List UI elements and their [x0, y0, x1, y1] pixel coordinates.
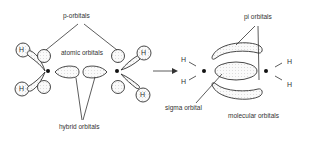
p-orbital-lobe [112, 50, 125, 63]
carbon-nucleus [202, 69, 206, 73]
h-atom-label: H [181, 78, 186, 85]
sigma-orbital [215, 62, 257, 80]
orbital-diagram [0, 0, 310, 142]
molecular-orbitals-label: molecular orbitals [228, 113, 279, 120]
h-atom-label: H [140, 91, 145, 98]
pi-orbital-upper [212, 43, 262, 59]
h-atom-label: H [141, 49, 146, 56]
atomic-orbitals-label: atomic orbitals [61, 50, 103, 57]
p-orbital-lobe [38, 50, 51, 63]
hybrid-lobe [55, 66, 79, 78]
hybrid-orbitals-label: hybrid orbitals [59, 124, 99, 131]
p-orbitals-label: p-orbitals [63, 13, 90, 20]
h-atom-label: H [181, 56, 186, 63]
p-orbital-lobe [112, 81, 125, 94]
carbon-nucleus [115, 69, 119, 73]
carbon-nucleus [264, 69, 268, 73]
sigma-orbital-label: sigma orbital [165, 105, 202, 112]
p-orbital-lobe [38, 81, 51, 94]
h-atom-label: H [19, 46, 24, 53]
h-atom-label: H [287, 81, 292, 88]
h-atom-label: H [287, 58, 292, 65]
carbon-nucleus [46, 69, 50, 73]
pi-orbital-lower [212, 83, 262, 99]
pi-orbitals-label: pi orbitals [244, 14, 272, 21]
hybrid-lobe [83, 66, 107, 78]
arrow-head [172, 68, 178, 74]
h-atom-label: H [19, 85, 24, 92]
